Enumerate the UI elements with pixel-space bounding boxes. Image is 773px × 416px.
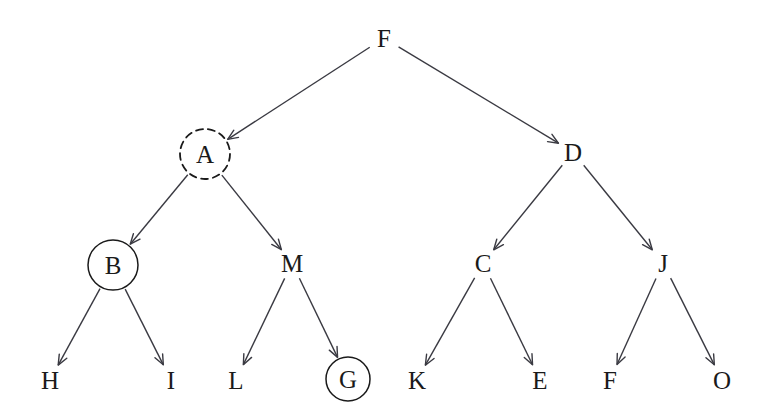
tree-edge-m-to-l xyxy=(243,278,284,364)
tree-node-f2[interactable]: F xyxy=(603,367,617,394)
tree-edge-a-to-b xyxy=(130,175,188,244)
tree-node-o[interactable]: O xyxy=(713,367,731,394)
tree-diagram-canvas: FADBMCJHILGKEFO xyxy=(0,0,773,416)
tree-edge-f-to-d xyxy=(399,47,559,143)
tree-edge-j-to-f2 xyxy=(617,278,656,364)
tree-node-f[interactable]: F xyxy=(377,25,391,52)
tree-node-b[interactable]: B xyxy=(105,252,122,279)
tree-node-m[interactable]: M xyxy=(281,250,303,277)
tree-edge-b-to-h xyxy=(58,289,100,365)
node-labels-layer: FADBMCJHILGKEFO xyxy=(41,25,731,394)
node-markers-layer xyxy=(88,129,370,401)
tree-node-d[interactable]: D xyxy=(564,139,582,166)
edges-layer xyxy=(58,47,714,365)
tree-node-g[interactable]: G xyxy=(339,366,357,393)
tree-edge-m-to-g xyxy=(299,278,337,357)
tree-node-e[interactable]: E xyxy=(532,367,547,394)
tree-node-i[interactable]: I xyxy=(167,367,175,394)
tree-edge-d-to-c xyxy=(494,165,563,250)
tree-edge-a-to-m xyxy=(222,175,282,250)
tree-edge-j-to-o xyxy=(671,278,715,365)
tree-edge-c-to-k xyxy=(425,278,474,365)
tree-node-c[interactable]: C xyxy=(475,250,492,277)
tree-edge-d-to-j xyxy=(584,165,653,250)
tree-edge-c-to-e xyxy=(490,278,532,364)
tree-node-h[interactable]: H xyxy=(41,367,59,394)
tree-node-l[interactable]: L xyxy=(228,367,243,394)
tree-diagram-svg: FADBMCJHILGKEFO xyxy=(0,0,773,416)
arrowhead-f-to-d xyxy=(548,134,559,143)
tree-node-j[interactable]: J xyxy=(658,250,668,277)
tree-edge-b-to-i xyxy=(125,289,163,365)
arrowhead-c-to-k xyxy=(425,354,434,365)
tree-edge-f-to-a xyxy=(228,47,370,139)
tree-node-a[interactable]: A xyxy=(196,141,214,168)
arrowhead-f-to-a xyxy=(228,130,239,139)
tree-node-k[interactable]: K xyxy=(408,367,426,394)
